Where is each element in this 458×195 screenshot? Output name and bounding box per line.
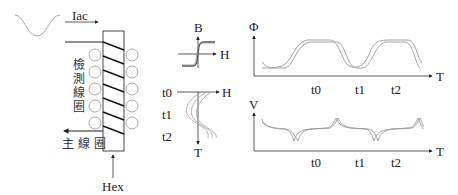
ht-t2-label: t2	[162, 130, 172, 143]
voltage-t2-label: t2	[391, 156, 401, 169]
voltage-curve-2	[262, 118, 424, 141]
flux-plot	[254, 36, 432, 76]
bh-b-axis-label: B	[194, 21, 203, 34]
detect-coil-circles-right	[126, 49, 138, 129]
voltage-v-axis-label: V	[249, 98, 258, 111]
ht-t0-label: t0	[162, 86, 172, 99]
voltage-t0-label: t0	[311, 156, 321, 169]
flux-phi-axis-label: Φ	[249, 20, 259, 33]
flux-t-axis-label: T	[436, 70, 444, 83]
flux-t0-label: t0	[311, 83, 321, 96]
detect-coil-circles-left	[89, 49, 101, 129]
flux-curve-1	[262, 40, 422, 68]
ht-plot	[177, 92, 219, 144]
flux-curve-2	[262, 42, 420, 68]
flux-t1-label: t1	[355, 83, 365, 96]
bh-plot	[178, 37, 216, 68]
voltage-t-axis-label: T	[436, 145, 444, 158]
ht-t-axis-label: T	[194, 146, 202, 159]
detect-coil-label: 檢測線圈	[71, 58, 83, 114]
ac-waveform-icon	[15, 15, 60, 36]
ht-t1-label: t1	[162, 108, 172, 121]
voltage-curve-1	[262, 118, 423, 141]
hex-label: Hex	[102, 180, 124, 193]
flux-t2-label: t2	[391, 83, 401, 96]
main-coil-windings	[103, 42, 124, 134]
ht-h-axis-label: H	[222, 86, 231, 99]
iac-label: Iac	[72, 9, 88, 22]
voltage-t1-label: t1	[355, 156, 365, 169]
voltage-plot	[254, 113, 432, 151]
bh-h-axis-label: H	[220, 48, 229, 61]
main-coil-label: 主線圈	[62, 138, 110, 150]
